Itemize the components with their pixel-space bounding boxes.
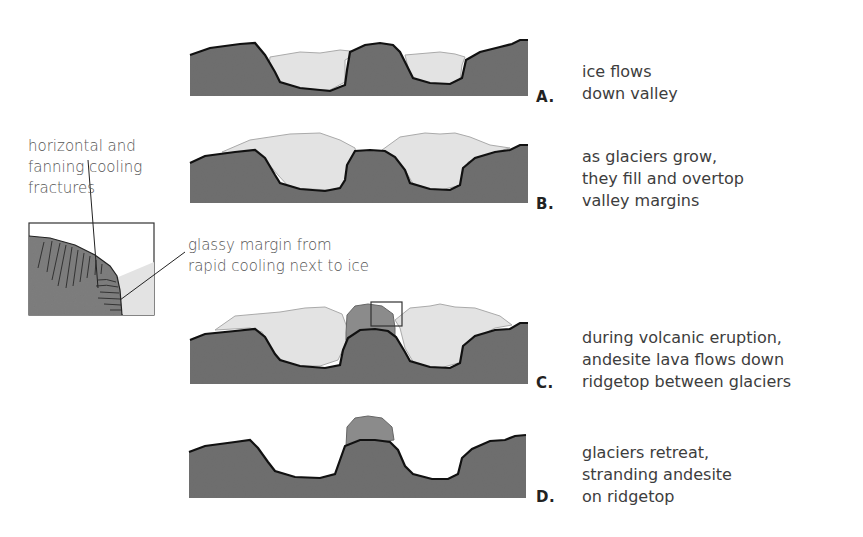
panel-b-letter: B.: [536, 195, 554, 213]
fractures-annotation: horizontal and fanning cooling fractures: [28, 136, 142, 199]
glacier-lava-diagram: [0, 0, 863, 537]
panel-d-letter: D.: [536, 488, 555, 506]
panel-d-cross-section: [189, 416, 526, 498]
panel-c-letter: C.: [536, 374, 554, 392]
glassy-margin-annotation: glassy margin from rapid cooling next to…: [188, 235, 369, 277]
panel-c-cross-section: [190, 302, 528, 384]
panel-d-caption: glaciers retreat, stranding andesite on …: [582, 442, 732, 508]
panel-a-letter: A.: [536, 88, 555, 106]
panel-a-cross-section: [190, 40, 528, 96]
panel-a-caption: ice flows down valley: [582, 61, 678, 105]
panel-b-cross-section: [190, 133, 528, 203]
panel-b-caption: as glaciers grow, they fill and overtop …: [582, 146, 744, 212]
panel-d-bedrock: [189, 435, 526, 498]
panel-c-caption: during volcanic eruption, andesite lava …: [582, 327, 791, 393]
